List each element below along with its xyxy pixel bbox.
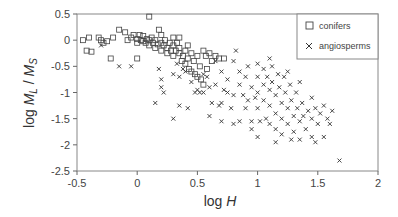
conifer-point	[105, 39, 110, 44]
angiosperm-point	[219, 70, 223, 74]
angiosperm-point	[256, 135, 260, 139]
angiosperm-point	[250, 85, 254, 89]
angiosperm-point	[205, 75, 209, 79]
angiosperm-point	[256, 75, 260, 79]
angiosperm-point	[250, 119, 254, 123]
angiosperm-point	[325, 117, 329, 121]
conifer-point	[108, 56, 113, 61]
angiosperm-point	[301, 114, 305, 118]
angiosperm-point	[283, 91, 287, 95]
angiosperm-point	[234, 49, 238, 53]
angiosperm-point	[318, 111, 322, 115]
angiosperm-point	[186, 106, 190, 110]
angiosperm-point	[198, 91, 202, 95]
conifer-point	[221, 56, 226, 61]
angiosperm-point	[207, 114, 211, 118]
conifer-point	[205, 66, 210, 71]
angiosperm-point	[157, 67, 161, 71]
angiosperm-point	[277, 85, 281, 89]
angiosperm-point	[244, 75, 248, 79]
x-tick-label: 1	[255, 177, 261, 189]
conifer-point	[84, 48, 89, 53]
angiosperm-point	[222, 88, 226, 92]
angiosperm-point	[189, 80, 193, 84]
angiosperm-point	[300, 101, 304, 105]
y-axis: 0.50-0.5-1-1.5-2-2.5	[51, 8, 77, 177]
angiosperm-point	[264, 117, 268, 121]
angiosperm-point	[256, 91, 260, 95]
angiosperm-point	[310, 96, 314, 100]
angiosperm-point	[232, 93, 236, 97]
angiosperm-point	[289, 138, 293, 142]
angiosperm-point	[213, 83, 217, 87]
angiosperm-point	[282, 75, 286, 79]
angiosperm-point	[292, 130, 296, 134]
angiosperm-point	[292, 114, 296, 118]
conifer-point	[123, 30, 128, 35]
conifer-point	[117, 27, 122, 32]
conifer-point	[171, 35, 176, 40]
angiosperm-point	[238, 119, 242, 123]
x-axis-title: log H	[204, 193, 238, 209]
angiosperm-point	[232, 122, 236, 126]
angiosperm-point	[274, 93, 278, 97]
angiosperm-point	[286, 122, 290, 126]
angiosperm-point	[274, 140, 278, 144]
angiosperm-point	[219, 101, 223, 105]
y-tick-label: -0.5	[51, 60, 70, 72]
conifer-point	[183, 48, 188, 53]
conifer-point	[135, 56, 140, 61]
angiosperm-point	[171, 72, 175, 76]
angiosperm-point	[322, 104, 326, 108]
angiosperm-point	[310, 117, 314, 121]
angiosperm-point	[226, 77, 230, 81]
x-tick-label: -0.5	[68, 177, 87, 189]
angiosperm-point	[316, 122, 320, 126]
conifer-point	[147, 14, 152, 19]
angiosperm-point	[306, 109, 310, 113]
angiosperm-point	[313, 140, 317, 144]
angiosperm-point	[129, 64, 133, 68]
angiosperm-point	[337, 159, 341, 163]
angiosperm-point	[330, 109, 334, 113]
angiosperm-point	[298, 80, 302, 84]
conifer-point	[201, 82, 206, 87]
angiosperm-point	[262, 67, 266, 71]
angiosperm-point	[268, 56, 272, 60]
conifer-point	[159, 48, 164, 53]
conifer-point	[159, 32, 164, 37]
angiosperm-point	[238, 70, 242, 74]
angiosperm-point	[280, 117, 284, 121]
conifer-point	[191, 59, 196, 64]
x-tick-label: 0	[134, 177, 140, 189]
angiosperm-point	[246, 64, 250, 68]
angiosperm-point	[159, 85, 163, 89]
angiosperm-point	[256, 62, 260, 66]
conifer-point	[197, 64, 202, 69]
x-tick-label: 1.5	[310, 177, 325, 189]
angiosperm-point	[246, 98, 250, 102]
angiosperm-point	[201, 72, 205, 76]
y-tick-label: -2	[60, 139, 70, 151]
angiosperm-point	[162, 91, 166, 95]
legend: conifers angiosperms	[297, 14, 378, 59]
angiosperm-point	[117, 64, 121, 68]
angiosperm-point	[262, 83, 266, 87]
scatter-chart: 0.50-0.5-1-1.5-2-2.5 -0.500.511.52 conif…	[0, 0, 398, 217]
angiosperm-point	[268, 104, 272, 108]
angiosperm-point	[177, 75, 181, 79]
angiosperm-point	[270, 80, 274, 84]
x-tick-label: 0.5	[190, 177, 205, 189]
y-tick-label: 0	[64, 34, 70, 46]
angiosperm-point	[262, 98, 266, 102]
angiosperm-point	[258, 119, 262, 123]
angiosperm-point	[232, 59, 236, 63]
y-tick-label: -1.5	[51, 113, 70, 125]
angiosperm-point	[294, 91, 298, 95]
angiosperm-point	[286, 106, 290, 110]
angiosperm-point	[238, 83, 242, 87]
y-tick-label: -1	[60, 87, 70, 99]
conifer-point	[81, 38, 86, 43]
angiosperm-point	[171, 117, 175, 121]
angiosperm-point	[322, 135, 326, 139]
